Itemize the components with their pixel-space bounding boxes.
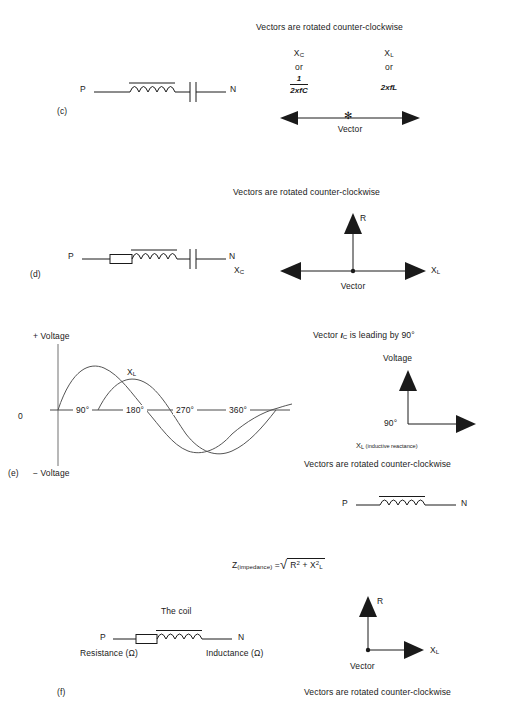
panel-c-or-left: or: [278, 62, 320, 72]
panel-d-vector-diagram: [258, 209, 448, 279]
panel-c-vector-label: Vector: [310, 124, 390, 134]
panel-c-xc-label: XC: [278, 48, 320, 58]
panel-d-origin-label: Vector: [313, 281, 393, 291]
formula-numerator: 1: [290, 74, 307, 83]
panel-d-xc-label: XC: [234, 265, 244, 275]
plot-origin-label: 0: [18, 411, 23, 421]
formula-plus: +: [302, 560, 307, 570]
panel-c-capacitive-formula: 1 2xfC: [276, 74, 322, 97]
panel-letter-f: (f): [57, 687, 65, 697]
phasor-title-pre: Vector: [313, 330, 340, 340]
xl-note-text: (inductive reactance): [364, 443, 417, 449]
plot-xtick-90: 90°: [73, 405, 92, 415]
panel-letter-d: (d): [30, 269, 41, 279]
panel-f-circuit-title: The coil: [161, 606, 192, 616]
formula-r-exponent: 2: [296, 559, 300, 566]
panel-e-caption-bottom: Vectors are rotated counter-clockwise: [304, 459, 451, 469]
panel-f-terminal-right: N: [238, 632, 244, 642]
formula-denominator: 2xfC: [290, 84, 307, 95]
panel-f-inductance-label: Inductance (Ω): [206, 648, 263, 658]
panel-e-voltage-label: Voltage: [383, 353, 412, 363]
panel-f-caption-bottom: Vectors are rotated counter-clockwise: [304, 687, 451, 697]
panel-e-phasor-title: Vector IC is leading by 90°: [313, 330, 415, 340]
waveform-plot: [28, 338, 293, 473]
xl-subscript: L: [437, 268, 441, 275]
panel-c-terminal-right: N: [230, 84, 236, 94]
panel-c-caption-top: Vectors are rotated counter-clockwise: [256, 22, 403, 32]
panel-c-terminal-left: P: [80, 84, 86, 94]
xl-subscript: L: [436, 648, 440, 655]
plot-xtick-360: 360°: [226, 405, 250, 415]
panel-c-circuit: [80, 72, 240, 102]
panel-f-circuit: [100, 622, 250, 648]
panel-d-terminal-right: N: [229, 251, 235, 261]
formula-subscript: (impedance): [237, 563, 272, 570]
panel-e-terminal-left: P: [342, 498, 348, 508]
xc-subscript: C: [300, 51, 305, 58]
panel-c-xl-label: XL: [368, 48, 410, 58]
plot-xtick-180: 180°: [123, 405, 147, 415]
xl-subscript: L: [390, 51, 394, 58]
panel-d-circuit: [68, 239, 240, 269]
panel-d-xl-label: XL: [431, 265, 440, 275]
panel-f-origin-label: Vector: [350, 661, 375, 671]
panel-letter-c: (c): [57, 106, 67, 116]
panel-f-terminal-left: P: [100, 632, 106, 642]
panel-e-xl-note: XL (inductive reactance): [356, 441, 418, 450]
formula-2xfl: 2xfL: [381, 83, 397, 92]
panel-f-vector-diagram: [340, 592, 460, 658]
panel-c-inductive-formula: 2xfL: [368, 76, 410, 94]
formula-x-subscript: L: [319, 563, 323, 570]
panel-letter-e: (e): [8, 468, 19, 478]
panel-e-circuit: [342, 487, 472, 513]
impedance-formula: Z(impedance) =√R2 + X2L: [232, 557, 325, 572]
plot-xtick-270: 270°: [173, 405, 197, 415]
panel-f-resistance-label: Resistance (Ω): [80, 648, 138, 658]
xl-subscript: L: [133, 370, 137, 377]
panel-d-r-label: R: [360, 213, 366, 223]
panel-d-caption-top: Vectors are rotated counter-clockwise: [233, 187, 380, 197]
plot-curve-label: XL: [127, 367, 136, 377]
panel-e-terminal-right: N: [461, 498, 467, 508]
phasor-title-post: is leading by 90°: [347, 330, 414, 340]
panel-f-xl-label: XL: [430, 645, 439, 655]
xc-subscript: C: [240, 268, 245, 275]
panel-e-angle-label: 90°: [382, 418, 399, 428]
panel-f-r-label: R: [377, 596, 383, 606]
figure-page: Vectors are rotated counter-clockwise P …: [0, 0, 517, 711]
panel-d-terminal-left: P: [68, 251, 74, 261]
panel-c-or-right: or: [368, 62, 410, 72]
panel-c-center-marker: ✻: [344, 110, 352, 121]
